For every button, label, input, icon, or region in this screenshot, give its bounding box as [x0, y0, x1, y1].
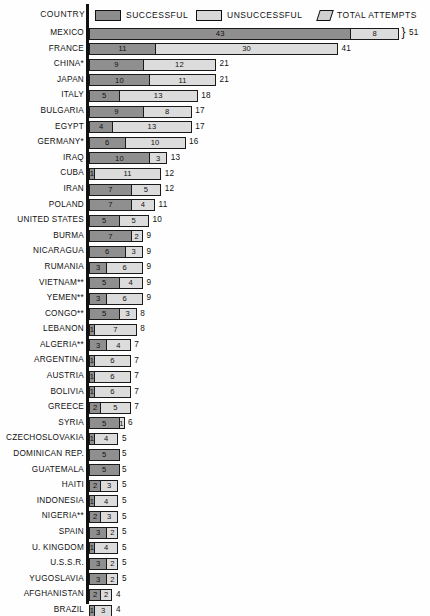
row-stacked-bar: 63	[89, 246, 143, 258]
bar-segment-unsuccessful: 3	[125, 246, 143, 258]
chart-row: CONGO**538	[0, 307, 430, 323]
chart-row: JAPAN101121	[0, 73, 430, 89]
bar-value-unsuccessful: 4	[128, 279, 132, 287]
chart-row: EGYPT41317	[0, 120, 430, 136]
row-country-label: CHINA*	[0, 59, 84, 68]
row-country-label: GERMANY*	[0, 137, 84, 146]
bar-segment-unsuccessful: 8	[143, 106, 192, 118]
bar-value-successful: 2	[93, 482, 97, 490]
row-total-value: 12	[165, 169, 175, 178]
legend-country-header: COUNTRY	[0, 9, 85, 19]
chart-row: GREECE257	[0, 400, 430, 416]
row-total-value: 18	[201, 91, 211, 100]
bar-segment-successful: 43	[89, 28, 351, 40]
bar-segment-successful: 3	[89, 573, 107, 585]
chart-row: ALGERIA**347	[0, 338, 430, 354]
bar-segment-successful: 11	[89, 43, 156, 55]
bar-value-unsuccessful: 5	[144, 186, 148, 194]
row-total-value: 51	[409, 28, 419, 37]
bar-segment-unsuccessful: 6	[106, 293, 143, 305]
row-total-value: 7	[134, 356, 139, 365]
row-stacked-bar: 16	[89, 355, 131, 367]
row-stacked-bar: 14	[89, 495, 118, 507]
chart-row: INDONESIA145	[0, 494, 430, 510]
bar-segment-successful: 7	[89, 230, 132, 242]
row-total-value: 4	[116, 590, 121, 599]
bar-value-successful: 43	[216, 30, 225, 38]
row-country-label: BOLIVIA	[0, 387, 84, 396]
bar-value-successful: 3	[96, 560, 100, 568]
bar-segment-unsuccessful: 10	[125, 137, 186, 149]
row-stacked-bar: 32	[89, 527, 118, 539]
row-stacked-bar: 98	[89, 106, 192, 118]
row-stacked-bar: 14	[89, 542, 118, 554]
chart-row: FRANCE113041	[0, 42, 430, 58]
row-stacked-bar: 55	[89, 215, 149, 227]
bar-segment-unsuccessful: 2	[100, 589, 112, 601]
row-total-value: 6	[128, 418, 133, 427]
row-country-label: CUBA	[0, 168, 84, 177]
bar-segment-unsuccessful: 4	[119, 277, 143, 289]
total-attempts-brace-icon: }	[402, 26, 406, 38]
bar-value-unsuccessful: 5	[113, 404, 117, 412]
bar-segment-successful: 3	[89, 558, 107, 570]
bar-value-unsuccessful: 3	[125, 310, 129, 318]
bar-segment-successful: 5	[89, 464, 120, 476]
row-stacked-bar: 16	[89, 386, 131, 398]
chart-row: U. KINGDOM145	[0, 541, 430, 557]
row-country-label: BURMA	[0, 231, 84, 240]
row-country-label: FRANCE	[0, 44, 84, 53]
row-stacked-bar: 5	[89, 449, 120, 461]
bar-segment-successful: 3	[89, 293, 107, 305]
row-stacked-bar: 75	[89, 184, 161, 196]
bar-segment-unsuccessful: 4	[131, 199, 155, 211]
bar-value-successful: 3	[96, 576, 100, 584]
bar-segment-unsuccessful: 5	[131, 184, 162, 196]
chart-row: BULGARIA9817	[0, 104, 430, 120]
chart-row: HAITI235	[0, 478, 430, 494]
chart-row: IRAQ10313	[0, 151, 430, 167]
row-total-value: 5	[122, 480, 127, 489]
bar-segment-unsuccessful: 3	[119, 308, 137, 320]
bar-value-unsuccessful: 6	[122, 264, 126, 272]
bar-segment-successful: 7	[89, 184, 132, 196]
legend-label-unsuccessful: UNSUCCESSFUL	[227, 10, 302, 20]
row-total-value: 7	[134, 371, 139, 380]
row-total-value: 5	[122, 574, 127, 583]
row-total-value: 10	[153, 215, 163, 224]
chart-row: AUSTRIA167	[0, 369, 430, 385]
row-country-label: BULGARIA	[0, 106, 84, 115]
row-total-value: 5	[122, 449, 127, 458]
row-stacked-bar: 25	[89, 402, 131, 414]
row-total-value: 5	[122, 558, 127, 567]
bar-segment-unsuccessful: 2	[106, 558, 118, 570]
bar-value-successful: 5	[102, 466, 106, 474]
row-stacked-bar: 74	[89, 199, 155, 211]
row-total-value: 9	[146, 247, 151, 256]
row-total-value: 21	[220, 59, 230, 68]
row-total-value: 8	[140, 324, 145, 333]
bar-segment-unsuccessful: 3	[149, 152, 167, 164]
bar-segment-unsuccessful: 2	[106, 527, 118, 539]
bar-value-successful: 2	[93, 513, 97, 521]
chart-row: NIGERIA**235	[0, 509, 430, 525]
bar-segment-unsuccessful: 6	[94, 386, 131, 398]
row-total-value: 16	[189, 137, 199, 146]
bar-value-successful: 5	[102, 451, 106, 459]
chart-row: CUBA11112	[0, 166, 430, 182]
row-stacked-bar: 51	[89, 417, 125, 429]
row-country-label: SPAIN	[0, 527, 84, 536]
bar-value-successful: 5	[102, 92, 106, 100]
bar-segment-successful: 5	[89, 215, 120, 227]
chart-row: SPAIN325	[0, 525, 430, 541]
bar-segment-unsuccessful: 30	[155, 43, 338, 55]
row-country-label: SYRIA	[0, 418, 84, 427]
bar-value-unsuccessful: 3	[132, 248, 136, 256]
bar-segment-unsuccessful: 12	[143, 59, 216, 71]
bar-segment-unsuccessful: 11	[94, 168, 161, 180]
bar-value-unsuccessful: 4	[104, 544, 108, 552]
chart-row: UNITED STATES5510	[0, 213, 430, 229]
row-total-value: 5	[122, 527, 127, 536]
bar-segment-unsuccessful: 5	[100, 402, 131, 414]
row-country-label: GREECE	[0, 402, 84, 411]
